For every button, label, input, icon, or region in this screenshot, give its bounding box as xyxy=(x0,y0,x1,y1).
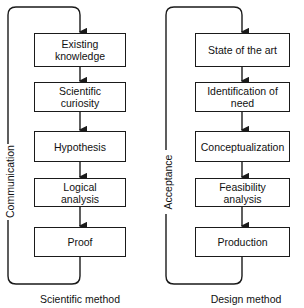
step-label: Scientific curiosity xyxy=(50,85,110,109)
caption-design-method: Design method xyxy=(196,293,296,305)
step-existing-knowledge: Existing knowledge xyxy=(34,33,126,67)
step-label: Production xyxy=(217,236,267,248)
caption-scientific-method: Scientific method xyxy=(30,293,130,305)
step-logical-analysis: Logical analysis xyxy=(34,178,126,207)
step-state-of-the-art: State of the art xyxy=(195,33,290,67)
step-proof: Proof xyxy=(34,227,126,257)
step-feasibility-analysis: Feasibility analysis xyxy=(195,178,290,207)
step-label: Identification of need xyxy=(203,85,283,109)
step-label: Hypothesis xyxy=(54,141,106,153)
step-conceptualization: Conceptualization xyxy=(195,131,290,162)
step-label: Existing knowledge xyxy=(50,38,110,62)
step-label: State of the art xyxy=(208,44,278,56)
step-production: Production xyxy=(195,227,290,257)
step-scientific-curiosity: Scientific curiosity xyxy=(34,82,126,112)
step-label: Proof xyxy=(67,236,92,248)
loop-label-acceptance: Acceptance xyxy=(162,150,174,214)
step-label: Conceptualization xyxy=(201,141,284,153)
step-hypothesis: Hypothesis xyxy=(34,131,126,162)
step-label: Logical analysis xyxy=(50,181,110,205)
step-identification-of-need: Identification of need xyxy=(195,82,290,112)
loop-label-communication: Communication xyxy=(4,144,16,220)
step-label: Feasibility analysis xyxy=(213,181,273,205)
